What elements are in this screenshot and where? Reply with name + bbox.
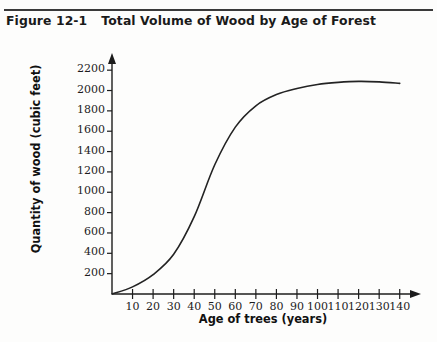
figure-container: Figure 12-1Total Volume of Wood by Age o… [0, 0, 437, 342]
y-tick-label: 1000 [63, 184, 105, 197]
x-tick-label: 140 [385, 300, 415, 313]
y-tick-label: 800 [63, 205, 105, 218]
chart-plot-area: Quantity of wood (cubic feet) Age of tre… [0, 34, 437, 342]
y-axis-title: Quantity of wood (cubic feet) [29, 59, 43, 259]
figure-title: Total Volume of Wood by Age of Forest [101, 13, 376, 28]
y-tick-label: 1400 [63, 144, 105, 157]
y-tick-label: 200 [63, 266, 105, 279]
y-tick-label: 1600 [63, 123, 105, 136]
y-tick-label: 600 [63, 225, 105, 238]
x-axis-title: Age of trees (years) [113, 312, 413, 326]
y-tick-label: 1800 [63, 103, 105, 116]
y-tick-label: 1200 [63, 164, 105, 177]
figure-caption: Figure 12-1Total Volume of Wood by Age o… [6, 13, 431, 33]
figure-number: Figure 12-1 [6, 13, 87, 28]
data-series-line [112, 81, 400, 294]
y-axis [108, 53, 116, 294]
x-axis [112, 290, 421, 298]
y-tick-label: 2000 [63, 83, 105, 96]
y-tick-label: 400 [63, 245, 105, 258]
y-tick-label: 2200 [63, 62, 105, 75]
header-divider [4, 9, 433, 11]
y-axis-ticks [107, 70, 112, 273]
